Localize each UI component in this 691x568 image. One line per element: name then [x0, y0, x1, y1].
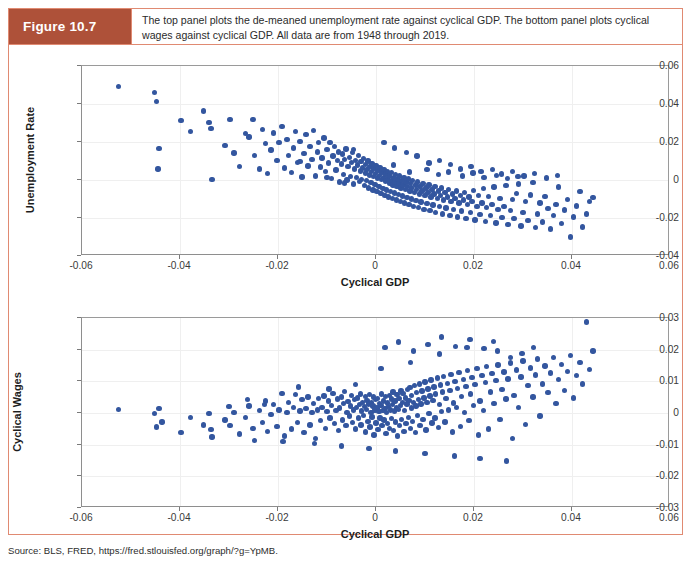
scatter-point [503, 396, 508, 401]
scatter-point [280, 439, 285, 444]
scatter-point [499, 171, 504, 176]
scatter-point [201, 422, 206, 427]
scatter-point [348, 174, 353, 179]
scatter-point [468, 391, 473, 396]
y-axis-tick-mark [77, 103, 81, 104]
scatter-point [501, 204, 506, 209]
scatter-point [262, 402, 267, 407]
y-axis-tick-mark [77, 380, 81, 381]
scatter-point [301, 151, 306, 156]
scatter-point [445, 381, 450, 386]
scatter-point [540, 381, 545, 386]
scatter-point [441, 374, 446, 379]
gridline-vertical [572, 318, 573, 506]
scatter-point [286, 400, 291, 405]
scatter-point [533, 225, 538, 230]
scatter-point [530, 180, 535, 185]
scatter-point [293, 129, 298, 134]
scatter-point [508, 355, 513, 360]
scatter-point [282, 165, 287, 170]
scatter-point [459, 394, 464, 399]
y-axis-tick-mark [77, 141, 81, 142]
x-axis-tick-mark [375, 507, 376, 511]
scatter-point [463, 384, 468, 389]
scatter-point [265, 429, 270, 434]
scatter-point [493, 378, 498, 383]
scatter-point [548, 370, 553, 375]
scatter-point [452, 379, 457, 384]
scatter-point [367, 424, 372, 429]
y-axis-tick-label: -0.01 [607, 438, 684, 449]
scatter-point [361, 413, 366, 418]
y-axis-tick-label: -0.02 [607, 212, 684, 223]
scatter-point [274, 158, 279, 163]
scatter-point [396, 339, 401, 344]
panel-cyclical-wages: -0.03-0.02-0.0100.010.020.03 -0.06-0.04-… [9, 297, 684, 535]
scatter-point [535, 356, 540, 361]
scatter-point [562, 388, 567, 393]
scatter-point [462, 410, 467, 415]
scatter-point [505, 376, 510, 381]
scatter-point [491, 401, 496, 406]
scatter-point [499, 215, 504, 220]
x-axis-tick-label: -0.04 [167, 260, 190, 271]
scatter-point [366, 446, 371, 451]
scatter-point [209, 177, 214, 182]
scatter-point [393, 448, 398, 453]
scatter-point [227, 117, 232, 122]
scatter-point [463, 216, 468, 221]
scatter-point [481, 346, 486, 351]
scatter-point [231, 410, 236, 415]
scatter-point [339, 394, 344, 399]
scatter-point [309, 157, 314, 162]
scatter-point [461, 377, 466, 382]
scatter-point [297, 139, 302, 144]
scatter-point [491, 184, 496, 189]
x-axis-tick-mark [375, 255, 376, 259]
y-axis-tick-mark [77, 179, 81, 180]
scatter-point [477, 398, 482, 403]
scatter-point [440, 389, 445, 394]
scatter-point [188, 415, 193, 420]
scatter-point [226, 404, 231, 409]
scatter-point [279, 124, 284, 129]
scatter-point [580, 381, 585, 386]
scatter-point [188, 129, 193, 134]
scatter-point [501, 369, 506, 374]
scatter-point [333, 167, 338, 172]
scatter-point [295, 420, 300, 425]
scatter-point [296, 384, 301, 389]
scatter-point [430, 202, 435, 207]
scatter-point [303, 406, 308, 411]
scatter-point [459, 208, 464, 213]
scatter-point [159, 419, 164, 424]
scatter-point [556, 184, 561, 189]
scatter-point [497, 196, 502, 201]
scatter-point [326, 386, 331, 391]
scatter-point [201, 108, 206, 113]
y-axis-tick-label: 0.03 [607, 312, 684, 323]
scatter-point [392, 145, 397, 150]
scatter-point [289, 426, 294, 431]
scatter-point [293, 392, 298, 397]
scatter-point [528, 192, 533, 197]
scatter-point [395, 433, 400, 438]
scatter-point [468, 164, 473, 169]
scatter-point [590, 348, 595, 353]
scatter-point [305, 394, 310, 399]
scatter-point [156, 146, 161, 151]
scatter-point [451, 207, 456, 212]
scatter-point [381, 140, 386, 145]
scatter-point [353, 382, 358, 387]
scatter-point [483, 380, 488, 385]
scatter-point [555, 173, 560, 178]
scatter-point [383, 431, 388, 436]
scatter-point [437, 158, 442, 163]
scatter-point [495, 362, 500, 367]
scatter-point [299, 397, 304, 402]
y-axis-tick-label: 0.04 [607, 98, 684, 109]
scatter-point [417, 423, 422, 428]
scatter-point [252, 153, 257, 158]
scatter-point [491, 339, 496, 344]
scatter-point [537, 200, 542, 205]
